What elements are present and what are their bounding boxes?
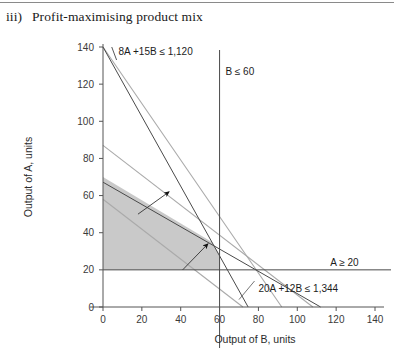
constraint-label-demand-b: B ≤ 60 (225, 66, 254, 77)
y-tick-label: 140 (77, 42, 94, 53)
x-tick-label: 100 (289, 314, 306, 325)
x-tick-label: 40 (175, 314, 187, 325)
chart-figure: 020406080100120140020406080100120140 8A … (0, 30, 394, 363)
x-axis-label: Output of B, units (214, 333, 295, 345)
x-tick-label: 20 (136, 314, 148, 325)
constraint-label-materials: 8A +15B ≤ 1,120 (119, 46, 194, 57)
linear-programming-chart: 020406080100120140020406080100120140 8A … (0, 30, 394, 363)
constraint-label-labour: 20A +12B ≤ 1,344 (258, 283, 338, 294)
axes-layer (90, 44, 384, 311)
x-tick-label: 120 (328, 314, 345, 325)
y-tick-label: 40 (83, 227, 95, 238)
page-title-number: iii) (6, 9, 32, 25)
y-tick-label: 80 (83, 153, 95, 164)
y-tick-label: 20 (83, 264, 95, 275)
constraint-label-leader (112, 47, 117, 60)
y-axis-label: Output of A, units (22, 137, 34, 218)
page-top-rule (0, 2, 394, 3)
page-title: iii)Profit-maximising product mix (6, 9, 203, 25)
page-title-text: Profit-maximising product mix (32, 9, 203, 24)
x-tick-label: 80 (253, 314, 265, 325)
x-tick-label: 60 (214, 314, 226, 325)
y-tick-label: 100 (77, 116, 94, 127)
x-tick-label: 0 (100, 314, 106, 325)
x-tick-label: 140 (367, 314, 384, 325)
constraint-lines-layer (103, 47, 391, 348)
y-tick-label: 120 (77, 79, 94, 90)
constraint-label-leader-2 (239, 281, 255, 300)
constraint-label-minimum-a: A ≥ 20 (330, 257, 359, 268)
y-tick-label: 60 (83, 190, 95, 201)
y-tick-label: 0 (88, 302, 94, 313)
